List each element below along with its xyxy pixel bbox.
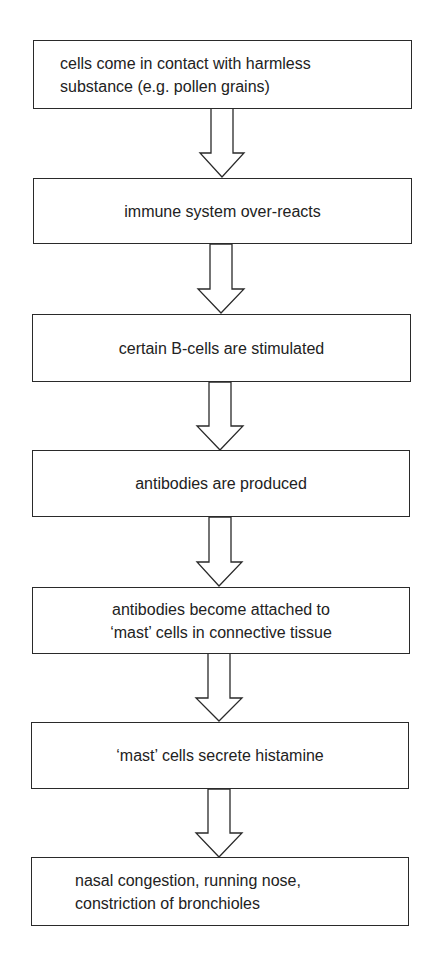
down-arrow-icon	[197, 382, 243, 450]
step-label: ‘mast’ cells secrete histamine	[116, 744, 323, 767]
flowchart-step-histamine-secreted: ‘mast’ cells secrete histamine	[31, 722, 409, 789]
flowchart-step-contact: cells come in contact with harmless subs…	[33, 40, 412, 109]
step-label: certain B-cells are stimulated	[119, 337, 324, 360]
step-label: cells come in contact with harmless subs…	[60, 52, 311, 98]
down-arrow-icon	[196, 653, 242, 721]
allergy-flowchart: cells come in contact with harmless subs…	[0, 0, 433, 953]
down-arrow-icon	[197, 517, 242, 586]
down-arrow-icon	[196, 789, 242, 857]
flowchart-step-immune-overreact: immune system over-reacts	[33, 178, 412, 244]
flowchart-step-symptoms: nasal congestion, running nose, constric…	[31, 857, 409, 926]
flowchart-step-antibodies-produced: antibodies are produced	[32, 450, 410, 517]
step-label: immune system over-reacts	[124, 200, 321, 223]
flowchart-step-b-cells-stimulated: certain B-cells are stimulated	[32, 314, 411, 382]
step-label: nasal congestion, running nose, constric…	[75, 869, 301, 915]
step-label: antibodies become attached to ‘mast’ cel…	[110, 598, 332, 644]
down-arrow-icon	[200, 108, 244, 177]
down-arrow-icon	[198, 244, 244, 313]
flowchart-step-antibodies-attach: antibodies become attached to ‘mast’ cel…	[32, 587, 410, 654]
step-label: antibodies are produced	[135, 472, 307, 495]
